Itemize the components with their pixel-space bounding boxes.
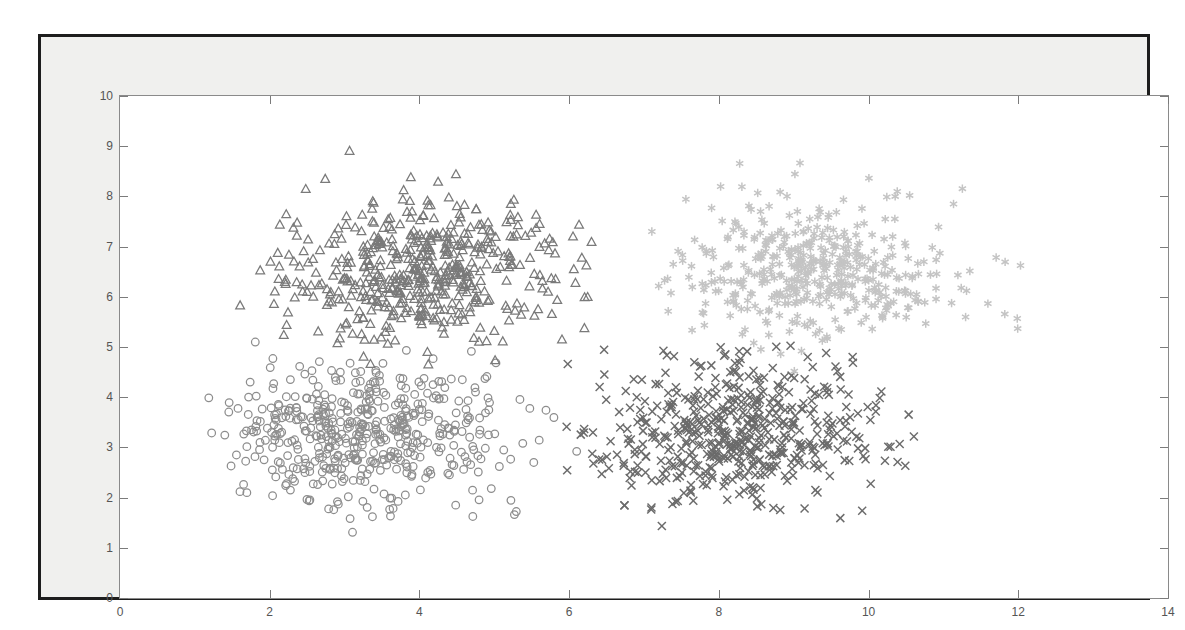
y-tick-label: 6 (106, 290, 113, 304)
x-tick-mark (1168, 590, 1169, 598)
series-cluster-3 (563, 342, 918, 530)
y-tick-mark (120, 96, 128, 97)
y-tick-label: 4 (106, 390, 113, 404)
y-tick-label: 9 (106, 139, 113, 153)
x-tick-label: 10 (862, 605, 875, 619)
y-tick-mark (120, 247, 128, 248)
x-tick-label: 14 (1161, 605, 1174, 619)
y-tick-mark-right (1160, 146, 1168, 147)
y-tick-mark-right (1160, 96, 1168, 97)
y-tick-mark (120, 347, 128, 348)
x-tick-mark (569, 590, 570, 598)
y-tick-label: 10 (100, 89, 113, 103)
y-tick-mark (120, 548, 128, 549)
x-tick-mark-top (419, 96, 420, 104)
x-tick-mark-top (270, 96, 271, 104)
x-tick-label: 12 (1012, 605, 1025, 619)
x-tick-mark (270, 590, 271, 598)
x-tick-mark (1018, 590, 1019, 598)
y-tick-mark-right (1160, 397, 1168, 398)
plot-surface (120, 96, 1168, 598)
x-tick-label: 4 (416, 605, 423, 619)
y-tick-label: 7 (106, 240, 113, 254)
x-tick-mark (419, 590, 420, 598)
series-cluster-1 (205, 338, 580, 536)
x-tick-mark (719, 590, 720, 598)
plot-axes: 01234567891002468101214 (119, 95, 1169, 599)
data-points-layer (120, 96, 1168, 598)
y-tick-mark-right (1160, 347, 1168, 348)
y-tick-label: 3 (106, 440, 113, 454)
y-tick-mark-right (1160, 247, 1168, 248)
y-tick-mark-right (1160, 598, 1168, 599)
y-tick-mark (120, 397, 128, 398)
x-tick-label: 8 (716, 605, 723, 619)
x-tick-mark-top (569, 96, 570, 104)
y-tick-label: 5 (106, 340, 113, 354)
x-tick-mark (869, 590, 870, 598)
y-tick-mark-right (1160, 196, 1168, 197)
series-cluster-4 (648, 159, 1024, 375)
scatter-plot-figure: 01234567891002468101214 (0, 0, 1185, 630)
y-tick-mark (120, 146, 128, 147)
y-tick-mark (120, 297, 128, 298)
y-tick-label: 1 (106, 541, 113, 555)
x-tick-mark-top (719, 96, 720, 104)
y-tick-mark-right (1160, 447, 1168, 448)
x-tick-mark-top (869, 96, 870, 104)
y-tick-mark (120, 196, 128, 197)
y-tick-label: 2 (106, 491, 113, 505)
x-tick-label: 0 (117, 605, 124, 619)
x-tick-mark-top (1168, 96, 1169, 104)
x-tick-label: 6 (566, 605, 573, 619)
y-tick-mark-right (1160, 548, 1168, 549)
y-tick-mark-right (1160, 498, 1168, 499)
y-tick-mark (120, 598, 128, 599)
x-tick-label: 2 (266, 605, 273, 619)
y-tick-label: 0 (106, 591, 113, 605)
x-tick-mark-top (1018, 96, 1019, 104)
y-tick-mark (120, 498, 128, 499)
series-cluster-2 (236, 146, 596, 367)
y-tick-label: 8 (106, 189, 113, 203)
figure-frame: 01234567891002468101214 (38, 34, 1150, 600)
y-tick-mark-right (1160, 297, 1168, 298)
y-tick-mark (120, 447, 128, 448)
